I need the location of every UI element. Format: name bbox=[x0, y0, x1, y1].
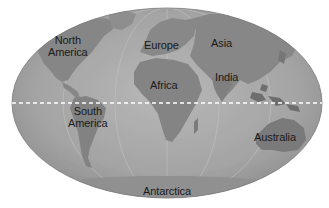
label-india: India bbox=[215, 72, 238, 83]
map-graphic bbox=[0, 0, 329, 208]
label-south-america-line2: America bbox=[68, 118, 108, 129]
new-zealand bbox=[304, 150, 310, 162]
label-europe: Europe bbox=[144, 40, 179, 51]
label-australia: Australia bbox=[254, 132, 296, 143]
label-north-america-line2: America bbox=[48, 47, 88, 58]
label-africa: Africa bbox=[150, 80, 178, 91]
label-asia: Asia bbox=[211, 38, 232, 49]
label-south-america: South America bbox=[68, 106, 108, 129]
label-north-america: North America bbox=[48, 35, 88, 58]
label-south-america-line1: South bbox=[68, 106, 108, 117]
label-north-america-line1: North bbox=[48, 35, 88, 46]
world-map: North America Europe Asia India Africa S… bbox=[0, 0, 329, 208]
label-antarctica: Antarctica bbox=[143, 186, 191, 197]
